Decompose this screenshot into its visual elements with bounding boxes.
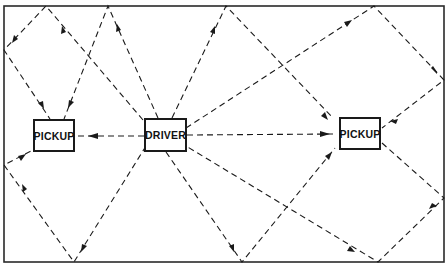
arrow-icon	[429, 203, 437, 209]
arrow-icon	[321, 112, 328, 120]
pickup-left-label: PICKUP	[34, 130, 75, 142]
pickup-right-label: PICKUP	[340, 128, 381, 140]
arrow-icon	[390, 119, 398, 124]
arrow-icon	[320, 131, 330, 137]
pickup-right-box: PICKUP	[339, 117, 381, 150]
driver-box: DRIVER	[144, 118, 187, 152]
arrow-icon	[431, 66, 437, 74]
driver-label: DRIVER	[145, 129, 186, 141]
arrow-icon	[18, 154, 26, 161]
arrow-icon	[88, 133, 98, 139]
arrow-icon	[210, 26, 215, 34]
arrow-icon	[81, 244, 87, 252]
arrow-icon	[68, 100, 74, 108]
arrow-icon	[344, 20, 352, 27]
arrow-icon	[325, 152, 332, 160]
pickup-left-box: PICKUP	[33, 119, 75, 152]
